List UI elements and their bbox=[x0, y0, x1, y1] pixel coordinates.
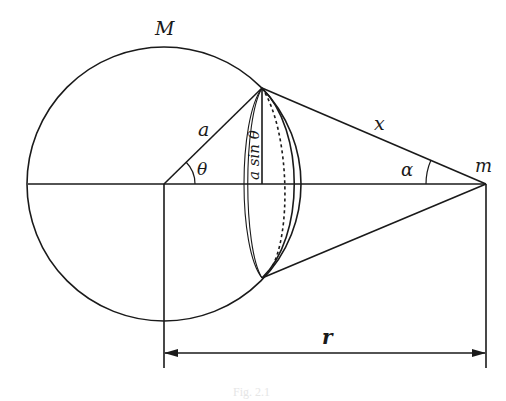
theta-arc bbox=[186, 162, 195, 184]
figure-caption: Fig. 2.1 bbox=[233, 385, 270, 399]
label-m: m bbox=[475, 155, 492, 176]
label-alpha: α bbox=[401, 159, 413, 180]
line-bottom bbox=[262, 184, 486, 278]
label-a-sin-theta: a sin θ bbox=[245, 130, 263, 180]
gravitation-sphere-diagram: M a θ a sin θ x α m r Fig. 2.1 bbox=[0, 0, 506, 401]
label-r: r bbox=[322, 325, 334, 349]
alpha-arc bbox=[426, 160, 431, 184]
label-x: x bbox=[374, 112, 385, 134]
ring-right-solid bbox=[262, 88, 294, 278]
line-x-top bbox=[262, 88, 486, 184]
label-a: a bbox=[198, 118, 209, 140]
ring-right-dashed bbox=[262, 88, 285, 270]
label-M: M bbox=[154, 17, 175, 39]
label-theta: θ bbox=[197, 159, 207, 179]
